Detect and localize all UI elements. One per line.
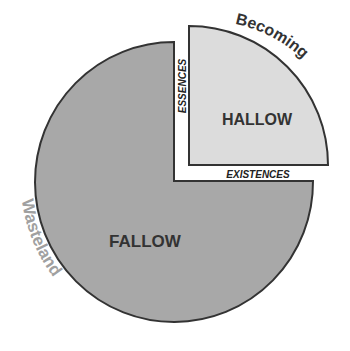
essences-label: ESSENCES (177, 58, 188, 113)
hallow-label: HALLOW (222, 111, 293, 128)
existences-label: EXISTENCES (226, 169, 290, 180)
pie-diagram: HALLOW FALLOW ESSENCES EXISTENCES Becomi… (0, 0, 350, 351)
fallow-label: FALLOW (109, 232, 182, 251)
